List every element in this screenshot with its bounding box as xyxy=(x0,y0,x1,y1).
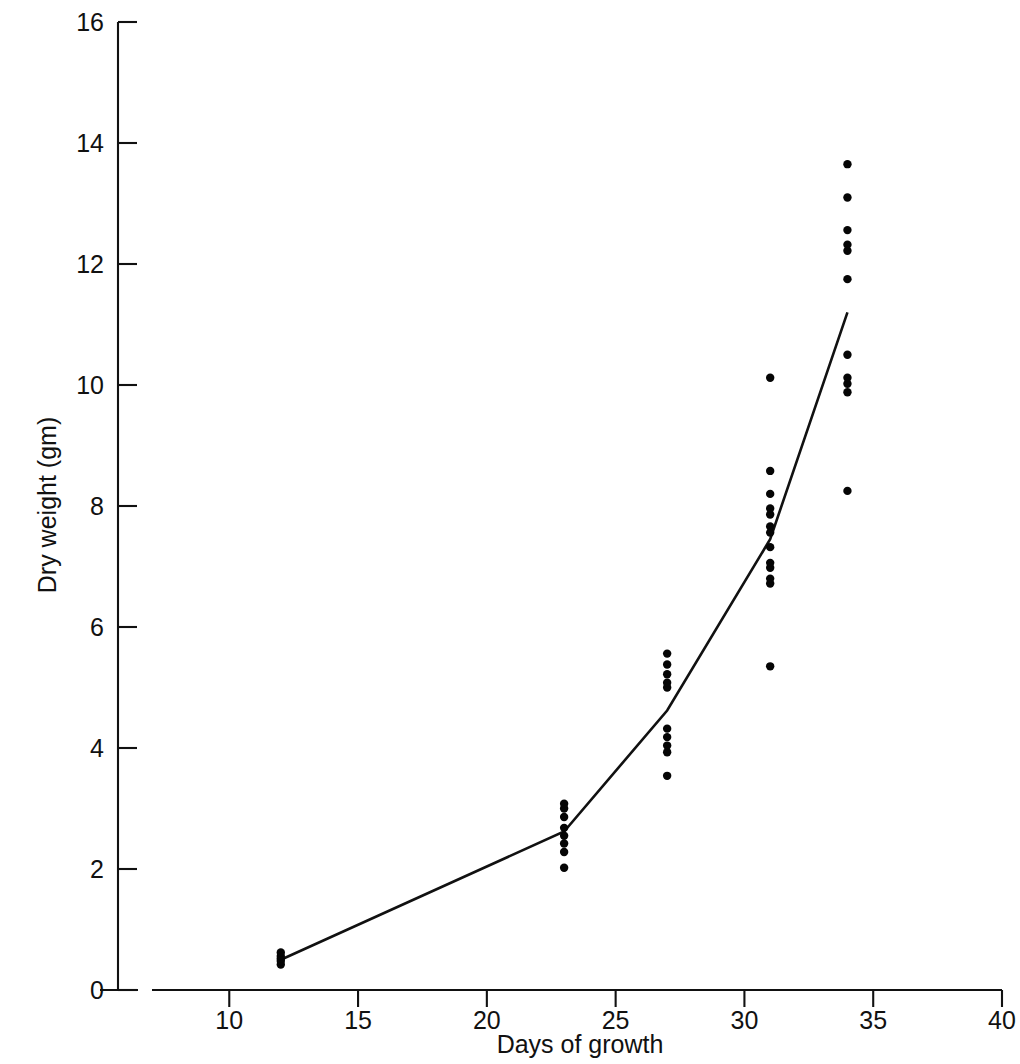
data-point xyxy=(766,662,774,670)
data-point xyxy=(663,772,671,780)
data-point xyxy=(766,490,774,498)
mean-trend-line xyxy=(281,312,848,959)
data-point xyxy=(766,504,774,512)
data-point xyxy=(843,240,851,248)
data-point xyxy=(663,670,671,678)
x-tick-label-15: 15 xyxy=(344,1006,372,1034)
y-tick-label-4: 4 xyxy=(90,734,104,762)
y-tick-label-16: 16 xyxy=(76,8,104,36)
growth-curve-figure: 0246810121416 Dry weight (gm) 1015202530… xyxy=(0,0,1020,1064)
y-tick-label-8: 8 xyxy=(90,492,104,520)
scatter-plot-canvas: 0246810121416 Dry weight (gm) 1015202530… xyxy=(0,0,1020,1064)
data-point xyxy=(843,226,851,234)
data-point xyxy=(843,487,851,495)
data-point xyxy=(843,193,851,201)
data-point xyxy=(663,649,671,657)
data-point xyxy=(766,574,774,582)
y-axis-label: Dry weight (gm) xyxy=(33,417,61,593)
data-point xyxy=(843,388,851,396)
data-point xyxy=(843,160,851,168)
x-axis: 10152025303540 Days of growth xyxy=(100,990,1016,1058)
data-point xyxy=(843,351,851,359)
y-axis: 0246810121416 Dry weight (gm) xyxy=(33,8,137,1004)
y-tick-label-12: 12 xyxy=(76,250,104,278)
data-point xyxy=(663,678,671,686)
data-point xyxy=(560,864,568,872)
data-point xyxy=(843,275,851,283)
data-point xyxy=(277,948,285,956)
x-tick-label-35: 35 xyxy=(859,1006,887,1034)
data-point xyxy=(663,733,671,741)
y-tick-label-14: 14 xyxy=(76,129,104,157)
data-point xyxy=(843,374,851,382)
x-axis-label: Days of growth xyxy=(497,1030,664,1058)
y-axis-ticks xyxy=(118,22,137,990)
data-point xyxy=(560,839,568,847)
x-tick-label-10: 10 xyxy=(215,1006,243,1034)
data-point xyxy=(766,467,774,475)
data-point xyxy=(560,824,568,832)
data-point xyxy=(560,813,568,821)
y-tick-label-6: 6 xyxy=(90,613,104,641)
data-point xyxy=(766,543,774,551)
x-tick-label-30: 30 xyxy=(731,1006,759,1034)
data-point xyxy=(663,660,671,668)
x-axis-ticks xyxy=(229,990,1002,1007)
scatter-point-group xyxy=(277,160,852,969)
data-point xyxy=(560,848,568,856)
clipped-figure-caption xyxy=(0,0,1020,2)
data-point xyxy=(766,522,774,530)
data-point xyxy=(560,832,568,840)
x-tick-label-40: 40 xyxy=(988,1006,1016,1034)
data-point xyxy=(766,374,774,382)
data-point xyxy=(766,559,774,567)
y-axis-tick-labels: 0246810121416 xyxy=(76,8,104,1004)
data-point xyxy=(663,741,671,749)
data-point xyxy=(560,799,568,807)
data-point xyxy=(663,724,671,732)
y-tick-label-2: 2 xyxy=(90,855,104,883)
y-tick-label-10: 10 xyxy=(76,371,104,399)
